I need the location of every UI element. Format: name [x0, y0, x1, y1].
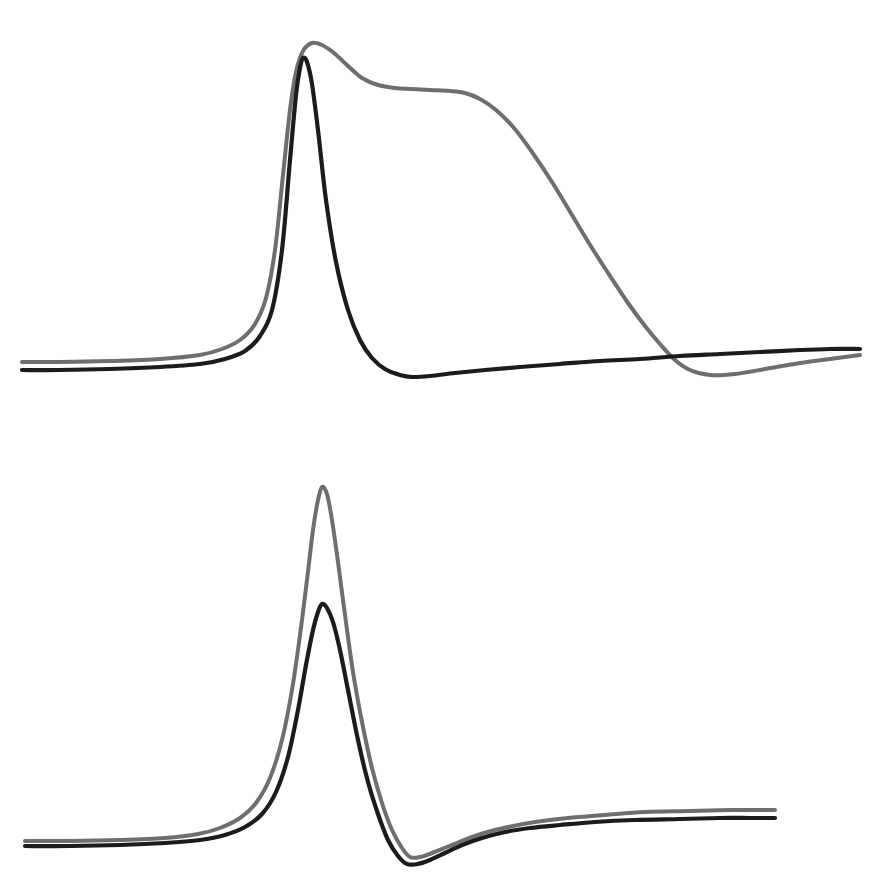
figure-root — [0, 0, 895, 896]
chart-canvas-top — [0, 0, 895, 448]
black-trace-bottom — [25, 604, 775, 865]
gray-trace-bottom — [25, 487, 775, 858]
gray-trace-top — [22, 43, 860, 376]
black-trace-top — [22, 58, 860, 377]
chart-panel-top — [0, 0, 895, 448]
chart-panel-bottom — [0, 448, 895, 896]
chart-canvas-bottom — [0, 448, 895, 896]
